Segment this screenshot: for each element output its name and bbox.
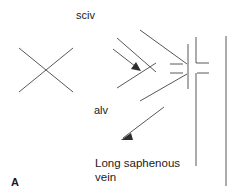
label-alv: alv <box>94 104 108 116</box>
label-sciv: sciv <box>76 9 95 21</box>
caption-line-1: Long saphenous <box>95 157 180 169</box>
figure-panel-a: sciv alv Long saphenousvein A <box>0 0 250 196</box>
caption-long-saphenous-vein: Long saphenousvein <box>95 157 180 184</box>
caption-line-2: vein <box>95 171 116 183</box>
panel-letter-label: A <box>11 176 19 188</box>
